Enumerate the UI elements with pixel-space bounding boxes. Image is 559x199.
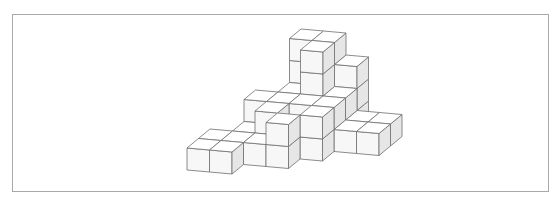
cube-stack-diagram <box>0 0 559 199</box>
cube-front-face <box>266 145 289 169</box>
cube-front-face <box>266 123 289 147</box>
cube-front-face <box>300 137 323 161</box>
cube-front-face <box>357 132 380 156</box>
cube-front-face <box>244 143 267 167</box>
cube-front-face <box>187 148 210 172</box>
cube-front-face <box>301 50 324 74</box>
cube-front-face <box>301 72 324 96</box>
cube-front-face <box>300 115 323 139</box>
cube-front-face <box>210 150 233 174</box>
cube-front-face <box>334 130 357 154</box>
cube-front-face <box>335 65 358 89</box>
